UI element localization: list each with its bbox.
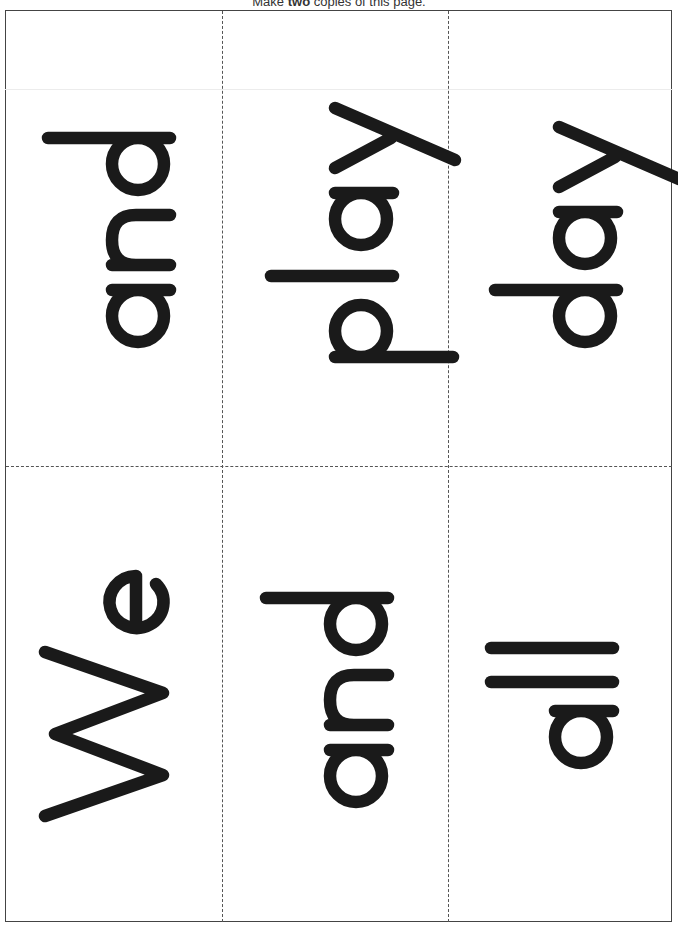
- word-glyphs: [6, 467, 222, 922]
- word-glyphs: [449, 11, 672, 466]
- flashcard-and-1: and: [6, 11, 222, 466]
- flashcard-day: day: [449, 11, 672, 466]
- instruction-emphasis: two: [288, 0, 310, 9]
- word-glyphs: [223, 467, 448, 922]
- instruction-prefix: Make: [252, 0, 284, 9]
- word-glyphs: [6, 11, 222, 466]
- flashcard-and-2: and: [223, 467, 448, 922]
- flashcard-we: We: [6, 467, 222, 922]
- instruction-header: Make two copies of this page.: [0, 0, 678, 9]
- flashcard-all: all: [449, 467, 672, 922]
- word-glyphs: [449, 467, 672, 922]
- instruction-suffix: copies of this page.: [314, 0, 426, 9]
- word-glyphs: [223, 11, 448, 466]
- flashcard-play: play: [223, 11, 448, 466]
